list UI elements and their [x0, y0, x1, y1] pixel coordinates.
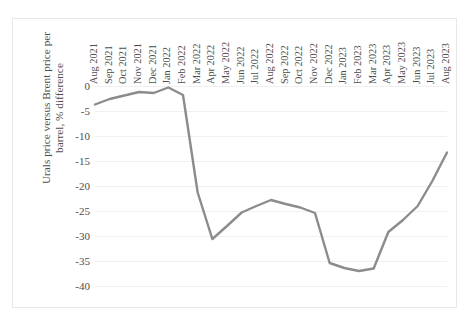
x-axis-tick-label: Jan 2022	[160, 22, 173, 84]
x-axis-tick-label: May 2023	[395, 22, 408, 84]
y-axis-tick-labels: 0-5-10-15-20-25-30-35-40	[56, 0, 90, 328]
x-axis-tick-label: Jun 2023	[410, 22, 423, 84]
x-axis-tick-label: Feb 2022	[175, 22, 188, 84]
x-axis-tick-label: Nov 2021	[131, 22, 144, 84]
x-axis-tick-label: Dec 2022	[322, 22, 335, 84]
gridline	[95, 286, 447, 287]
y-axis-tick-label: -35	[56, 256, 90, 267]
y-axis-tick-label: -20	[56, 181, 90, 192]
x-axis-tick-label: Apr 2023	[380, 22, 393, 84]
x-axis-tick-label: Jan 2023	[336, 22, 349, 84]
x-axis-tick-label: Apr 2022	[204, 22, 217, 84]
y-axis-title-line-1: Urals price versus Brent price per	[40, 32, 53, 184]
y-axis-tick-label: -10	[56, 131, 90, 142]
x-axis-tick-label: Mar 2022	[190, 22, 203, 84]
series-line-chart	[95, 86, 447, 286]
x-axis-tick-label: Sep 2021	[102, 22, 115, 84]
series-urals-brent-spread	[95, 88, 447, 272]
x-axis-tick-label: Dec 2021	[146, 22, 159, 84]
x-axis-tick-label: Aug 2023	[439, 22, 452, 84]
y-axis-tick-label: -40	[56, 281, 90, 292]
x-axis-tick-labels: Aug 2021Sep 2021Oct 2021Nov 2021Dec 2021…	[95, 22, 447, 84]
x-axis-tick-label: Sep 2022	[278, 22, 291, 84]
chart-container: Urals price versus Brent price per barre…	[0, 0, 475, 328]
y-axis-tick-label: -30	[56, 231, 90, 242]
x-axis-tick-label: Feb 2023	[351, 22, 364, 84]
x-axis-tick-label: Jun 2022	[234, 22, 247, 84]
x-axis-tick-label: Oct 2021	[116, 22, 129, 84]
x-axis-tick-label: Mar 2023	[366, 22, 379, 84]
x-axis-tick-label: Jul 2022	[248, 22, 261, 84]
x-axis-tick-label: Nov 2022	[307, 22, 320, 84]
y-axis-tick-label: -5	[56, 106, 90, 117]
x-axis-tick-label: Aug 2021	[87, 22, 100, 84]
plot-area	[95, 86, 447, 286]
x-axis-tick-label: May 2022	[219, 22, 232, 84]
x-axis-tick-label: Aug 2022	[263, 22, 276, 84]
y-axis-tick-label: -25	[56, 206, 90, 217]
y-axis-tick-label: -15	[56, 156, 90, 167]
x-axis-tick-label: Jul 2023	[424, 22, 437, 84]
y-axis-tick-label: 0	[56, 81, 90, 92]
x-axis-tick-label: Oct 2022	[292, 22, 305, 84]
